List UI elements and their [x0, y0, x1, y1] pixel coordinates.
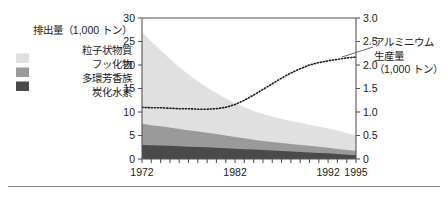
right-tick-label: 3.0	[363, 12, 378, 24]
left-tick-label: 20	[123, 59, 135, 71]
right-axis-title: アルミニウム 生産量 （1,000 トン）	[374, 36, 443, 77]
left-tick-label: 15	[123, 82, 135, 94]
right-tick-label: 0.5	[363, 129, 378, 141]
legend-swatch-pah	[16, 82, 29, 92]
left-tick-label: 25	[123, 35, 135, 47]
x-tick-label: 1982	[223, 166, 247, 178]
right-axis-ticks	[356, 18, 360, 159]
right-axis-title-line2: 生産量	[374, 50, 443, 64]
legend-swatch-particulates	[16, 54, 29, 64]
right-axis-tick-labels: 00.51.01.52.02.53.0	[363, 12, 378, 165]
x-axis-tick-labels: 1972198219921995	[130, 166, 368, 178]
left-tick-label: 30	[123, 12, 135, 24]
right-tick-label: 1.5	[363, 82, 378, 94]
x-tick-label: 1995	[344, 166, 368, 178]
left-axis-tick-labels: 051015202530	[123, 12, 135, 165]
x-tick-label: 1972	[130, 166, 154, 178]
plot-wrapper: 051015202530 00.51.01.52.02.53.0 1972198…	[0, 0, 448, 197]
left-axis-ticks	[138, 18, 142, 159]
right-axis-title-line3: （1,000 トン）	[374, 63, 443, 77]
right-tick-label: 0	[363, 153, 369, 165]
legend-swatch-fluorides	[16, 68, 29, 78]
right-axis-title-line1: アルミニウム	[374, 36, 443, 50]
right-tick-label: 1.0	[363, 106, 378, 118]
emissions-aluminium-area-chart: 排出量（1,000 トン） 粒子状物質 フッ化物 多環芳香族 炭化水素	[0, 0, 448, 197]
footer-divider	[8, 186, 440, 187]
left-tick-label: 10	[123, 106, 135, 118]
x-axis-ticks	[142, 159, 356, 163]
left-tick-label: 0	[129, 153, 135, 165]
chart-svg: 051015202530 00.51.01.52.02.53.0 1972198…	[0, 0, 448, 197]
x-tick-label: 1992	[316, 166, 340, 178]
left-tick-label: 5	[129, 129, 135, 141]
